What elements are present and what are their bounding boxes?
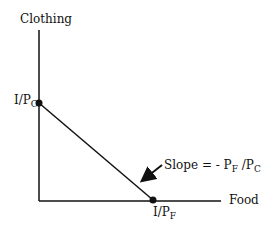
slope-sub-c: C: [254, 164, 261, 174]
y-intercept-label: I/PC: [14, 94, 38, 107]
slope-annotation: Slope = - PF /PC: [164, 159, 261, 172]
x-intercept-label: I/PF: [153, 206, 176, 219]
diagram-graphics: [0, 0, 267, 230]
budget-line: [39, 103, 153, 200]
slope-mid: /P: [238, 158, 254, 172]
slope-arrow: [143, 165, 162, 180]
slope-prefix: Slope = - P: [164, 158, 232, 172]
x-intercept-subscript: F: [170, 211, 176, 221]
x-intercept-text: I/P: [153, 205, 170, 219]
y-intercept-subscript: C: [31, 99, 38, 109]
x-intercept-point: [150, 197, 157, 204]
y-axis-label: Clothing: [20, 13, 72, 25]
x-axis-label: Food: [229, 194, 259, 206]
y-intercept-text: I/P: [14, 93, 31, 107]
slope-sub-f: F: [232, 164, 238, 174]
budget-line-diagram: Clothing Food I/PC I/PF Slope = - PF /PC: [0, 0, 267, 230]
